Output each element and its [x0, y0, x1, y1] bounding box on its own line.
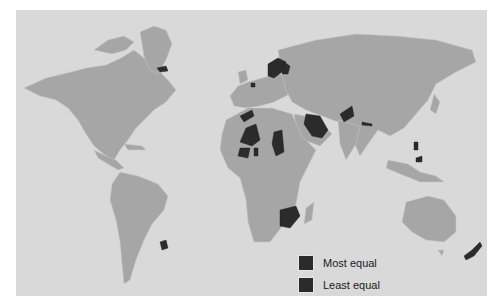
caribbean	[124, 144, 146, 150]
world-map-svg	[16, 10, 487, 296]
south-africa-region	[280, 206, 300, 228]
philippines-region	[414, 142, 418, 150]
south-america	[110, 172, 168, 284]
southeast-asia-islands	[386, 160, 444, 182]
legend: Most equal Least equal	[298, 252, 380, 296]
sulawesi-region	[416, 156, 422, 162]
tasmania	[438, 250, 444, 256]
legend-label: Least equal	[323, 279, 380, 291]
legend-item-most-equal: Most equal	[298, 252, 380, 274]
legend-label: Most equal	[323, 257, 377, 269]
australia	[402, 196, 456, 242]
new-zealand-region	[464, 242, 482, 260]
uk-dot	[251, 83, 255, 87]
legend-swatch	[298, 277, 314, 293]
guinea-region	[238, 148, 250, 158]
india	[338, 120, 360, 160]
uruguay-region	[160, 240, 168, 250]
canadian-arctic	[94, 36, 134, 54]
legend-item-least-equal: Least equal	[298, 274, 380, 296]
madagascar	[304, 202, 314, 224]
world-map: Most equal Least equal	[16, 10, 487, 296]
uk-ireland	[238, 70, 248, 84]
legend-swatch	[298, 255, 314, 271]
japan	[430, 94, 440, 114]
burkina-region	[254, 148, 258, 156]
